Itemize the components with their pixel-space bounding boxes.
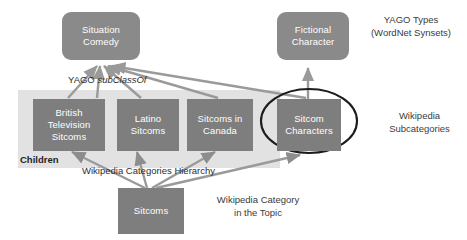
group-label-children: Children: [20, 154, 59, 166]
caption-wikipedia-subcategories: Wikipedia Subcategories: [372, 110, 467, 135]
node-sitcoms[interactable]: Sitcoms: [118, 188, 184, 234]
edge-label-yago-prefix: YAGO: [68, 74, 97, 85]
edge-label-subclassof-italic: subClassOf: [97, 74, 146, 85]
node-latino-sitcoms[interactable]: Latino Sitcoms: [117, 99, 179, 151]
diagram-canvas: Situation Comedy Fictional Character Bri…: [0, 0, 467, 240]
caption-wikipedia-category-in-topic: Wikipedia Category in the Topic: [196, 194, 320, 219]
node-sitcom-characters[interactable]: Sitcom Characters: [277, 99, 341, 151]
node-situation-comedy[interactable]: Situation Comedy: [62, 12, 140, 60]
caption-yago-types: YAGO Types (WordNet Synsets): [355, 14, 467, 39]
edge-label-wikipedia-categories-hierarchy: Wikipedia Categories Hierarchy: [82, 165, 215, 177]
edge-label-yago-subclassof: YAGO subClassOf: [68, 74, 147, 86]
node-fictional-character[interactable]: Fictional Character: [277, 12, 349, 60]
node-british-television-sitcoms[interactable]: British Television Sitcoms: [33, 99, 105, 151]
node-sitcoms-in-canada[interactable]: Sitcoms in Canada: [187, 99, 253, 151]
